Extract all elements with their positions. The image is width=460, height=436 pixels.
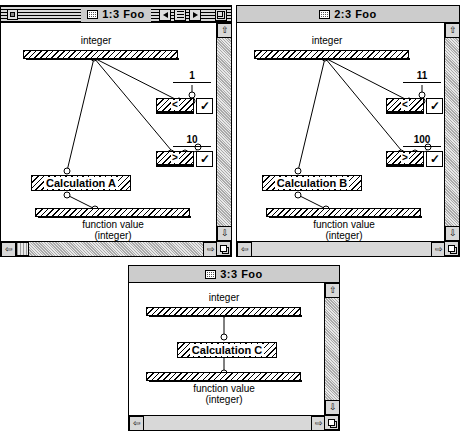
window-2-title-group: 2:3 Foo (313, 7, 383, 22)
left-arrow-icon: ⇦ (5, 245, 13, 254)
window-2-condition-1[interactable]: < ✓ (386, 98, 443, 114)
window-2-calculation-node[interactable]: Calculation B (262, 175, 362, 191)
window-3-vertical-scrollbar[interactable]: ⇧ ⇩ (324, 283, 339, 415)
document-icon (87, 10, 98, 19)
scroll-down-arrow[interactable]: ⇩ (325, 400, 340, 415)
window-3-title: 3:3 Foo (220, 268, 263, 281)
constant-value: 100 (403, 135, 441, 145)
window-3-output-terminal[interactable] (146, 372, 301, 381)
vertical-scroll-track[interactable] (445, 38, 459, 226)
constant-value: 1 (173, 71, 211, 81)
window-1-output-terminal[interactable] (35, 208, 190, 217)
window-3-foo[interactable]: 3:3 Foo integer Calculation C function v… (128, 265, 340, 431)
window-2-output-terminal[interactable] (266, 208, 421, 217)
next-arrow-icon[interactable] (189, 9, 201, 21)
condition-checkbox[interactable]: ✓ (196, 151, 213, 167)
window-1-constant-1[interactable]: 1 (173, 71, 211, 83)
window-2-horizontal-scrollbar[interactable]: ⇦ ⇨ (237, 241, 446, 256)
window-3-title-group: 3:3 Foo (199, 267, 269, 282)
window-2-condition-2[interactable]: > ✓ (386, 151, 443, 167)
horizontal-scroll-track[interactable] (29, 242, 203, 256)
window-3-horizontal-scrollbar[interactable]: ⇦ ⇨ (129, 415, 326, 430)
vertical-scroll-track[interactable] (325, 298, 339, 400)
window-1-input-label: integer (61, 35, 131, 47)
comparison-operator-box[interactable]: > (386, 151, 424, 167)
window-1-title-group: 1:3 Foo (81, 7, 151, 22)
right-arrow-icon: ⇨ (435, 245, 443, 254)
condition-checkbox[interactable]: ✓ (196, 98, 213, 114)
condition-checkbox[interactable]: ✓ (426, 98, 443, 114)
window-2-vertical-scrollbar[interactable]: ⇧ ⇩ (444, 23, 459, 241)
down-arrow-icon: ⇩ (329, 403, 337, 412)
left-arrow-icon: ⇦ (241, 245, 249, 254)
up-arrow-icon: ⇧ (449, 26, 457, 35)
operator-symbol: > (401, 153, 409, 163)
horizontal-scroll-track[interactable] (252, 242, 431, 256)
window-2-constant-1[interactable]: 11 (403, 71, 441, 83)
window-2-constant-2[interactable]: 100 (403, 135, 441, 147)
right-arrow-icon: ⇨ (315, 419, 323, 428)
down-arrow-icon: ⇩ (449, 229, 457, 238)
list-menu-icon[interactable] (174, 9, 186, 21)
window-1-output-label-2: (integer) (73, 230, 153, 241)
constant-value: 11 (403, 71, 441, 81)
window-1-input-terminal[interactable] (23, 50, 178, 59)
window-2-canvas[interactable]: integer 11 < ✓ 100 > ✓ Calculation B fun… (237, 23, 444, 241)
window-2-input-terminal[interactable] (254, 50, 409, 59)
calculation-label: Calculation C (190, 344, 264, 356)
scroll-down-arrow[interactable]: ⇩ (217, 226, 232, 241)
horizontal-scroll-thumb[interactable] (16, 242, 29, 256)
scroll-left-arrow[interactable]: ⇦ (237, 242, 252, 257)
condition-checkbox[interactable]: ✓ (426, 151, 443, 167)
window-3-titlebar[interactable]: 3:3 Foo (129, 266, 339, 283)
window-2-output-label-2: (integer) (304, 230, 384, 241)
window-1-constant-2[interactable]: 10 (173, 135, 211, 147)
scroll-up-arrow[interactable]: ⇧ (325, 283, 340, 298)
window-1-horizontal-scrollbar[interactable]: ⇦ ⇨ (1, 241, 218, 256)
comparison-operator-box[interactable]: < (386, 98, 424, 114)
close-box-icon[interactable] (7, 9, 18, 20)
operator-symbol: > (171, 153, 179, 163)
comparison-operator-box[interactable]: > (156, 151, 194, 167)
window-1-condition-1[interactable]: < ✓ (156, 98, 213, 114)
window-3-canvas[interactable]: integer Calculation C function value (in… (129, 283, 324, 415)
window-3-resize-grip[interactable] (324, 415, 339, 430)
vertical-scroll-track[interactable] (217, 38, 231, 226)
window-2-resize-grip[interactable] (444, 241, 459, 256)
window-2-titlebar[interactable]: 2:3 Foo (237, 6, 459, 23)
scroll-up-arrow[interactable]: ⇧ (217, 23, 232, 38)
prev-arrow-icon[interactable] (159, 9, 171, 21)
document-icon (319, 10, 330, 19)
window-1-calculation-node[interactable]: Calculation A (31, 175, 131, 191)
document-icon (205, 270, 216, 279)
window-2-input-label: integer (292, 35, 362, 47)
window-3-calculation-node[interactable]: Calculation C (177, 342, 277, 358)
window-3-output-label-2: (integer) (184, 394, 264, 406)
zoom-box-icon[interactable] (215, 9, 227, 21)
scroll-left-arrow[interactable]: ⇦ (129, 416, 144, 431)
window-1-vertical-scrollbar[interactable]: ⇧ ⇩ (216, 23, 231, 241)
window-3-input-terminal[interactable] (146, 307, 301, 316)
window-1-canvas[interactable]: integer 1 < ✓ 10 > ✓ Calculation A funct… (1, 23, 216, 241)
horizontal-scroll-track[interactable] (144, 416, 311, 430)
scroll-down-arrow[interactable]: ⇩ (445, 226, 460, 241)
window-1-resize-grip[interactable] (216, 241, 231, 256)
scroll-left-arrow[interactable]: ⇦ (1, 242, 16, 257)
calculation-label: Calculation A (44, 177, 118, 189)
comparison-operator-box[interactable]: < (156, 98, 194, 114)
left-arrow-icon: ⇦ (133, 419, 141, 428)
window-1-title: 1:3 Foo (102, 8, 145, 21)
window-2-title: 2:3 Foo (334, 8, 377, 21)
window-3-input-label: integer (189, 292, 259, 304)
window-1-condition-2[interactable]: > ✓ (156, 151, 213, 167)
window-1-titlebar-controls[interactable] (159, 8, 227, 21)
up-arrow-icon: ⇧ (329, 286, 337, 295)
constant-value: 10 (173, 135, 211, 145)
window-2-foo[interactable]: 2:3 Foo integer 11 (236, 5, 460, 257)
calculation-label: Calculation B (275, 177, 349, 189)
window-1-titlebar[interactable]: 1:3 Foo (1, 6, 231, 23)
operator-symbol: < (401, 100, 409, 110)
down-arrow-icon: ⇩ (221, 229, 229, 238)
scroll-up-arrow[interactable]: ⇧ (445, 23, 460, 38)
window-1-foo[interactable]: 1:3 Foo (0, 5, 232, 257)
